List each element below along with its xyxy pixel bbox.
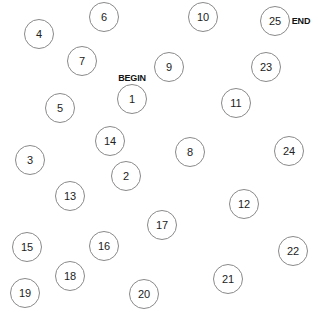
end-label: END (292, 16, 310, 26)
node-13[interactable]: 13 (55, 181, 85, 211)
node-10[interactable]: 10 (188, 2, 218, 32)
node-9[interactable]: 9 (154, 52, 184, 82)
node-3[interactable]: 3 (15, 145, 45, 175)
node-19[interactable]: 19 (10, 278, 40, 308)
node-21[interactable]: 21 (213, 264, 243, 294)
begin-label: BEGIN (118, 73, 146, 83)
node-14[interactable]: 14 (95, 126, 125, 156)
node-22[interactable]: 22 (278, 236, 308, 266)
node-25[interactable]: 25 (260, 6, 290, 36)
node-8[interactable]: 8 (175, 137, 205, 167)
node-4[interactable]: 4 (24, 19, 54, 49)
node-17[interactable]: 17 (147, 210, 177, 240)
node-1[interactable]: 1 (117, 84, 147, 114)
node-12[interactable]: 12 (229, 189, 259, 219)
node-23[interactable]: 23 (251, 52, 281, 82)
node-18[interactable]: 18 (55, 261, 85, 291)
node-6[interactable]: 6 (89, 2, 119, 32)
node-24[interactable]: 24 (274, 136, 304, 166)
node-15[interactable]: 15 (12, 232, 42, 262)
node-5[interactable]: 5 (45, 93, 75, 123)
node-7[interactable]: 7 (67, 46, 97, 76)
node-16[interactable]: 16 (89, 231, 119, 261)
node-2[interactable]: 2 (111, 161, 141, 191)
node-11[interactable]: 11 (221, 88, 251, 118)
node-20[interactable]: 20 (129, 279, 159, 309)
